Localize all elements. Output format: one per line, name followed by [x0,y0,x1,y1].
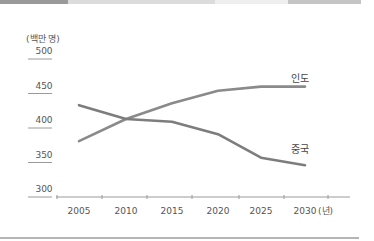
y-axis-unit-label: (백만 명) [26,34,60,44]
population-line-chart: (백만 명) 500450400350300 20052010201520202… [0,0,374,241]
y-tick-label: 350 [35,150,52,160]
series-line-china [79,105,305,165]
y-tick-label: 300 [35,184,52,194]
series-label-china: 중국 [291,144,309,155]
x-tick-label: 2005 [68,206,91,216]
x-tick-label: 2020 [207,206,230,216]
y-tick-label: 450 [35,81,52,91]
x-tick-label: 2030 [294,206,317,216]
x-axis: 200520102015202020252030 [56,195,350,216]
x-axis-unit-label: (년) [318,206,333,216]
y-tick-label: 400 [35,115,52,125]
x-tick-label: 2025 [250,206,273,216]
series-lines: 인도중국 [79,73,309,166]
series-label-india: 인도 [291,73,309,84]
x-tick-label: 2010 [115,206,138,216]
y-axis: 500450400350300 [28,46,53,197]
y-tick-label: 500 [35,46,52,56]
x-tick-label: 2015 [161,206,184,216]
bottom-divider [0,237,359,239]
